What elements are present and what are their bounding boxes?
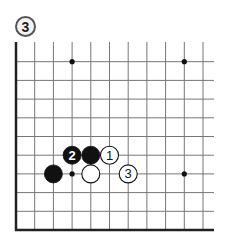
black-stone <box>44 165 62 183</box>
move-number: 2 <box>68 148 75 163</box>
white-stone: 1 <box>101 146 119 164</box>
star-point-icon <box>70 171 75 176</box>
board-grid <box>15 42 214 231</box>
white-stone: 3 <box>119 165 137 183</box>
white-stone <box>82 165 100 183</box>
star-point-icon <box>70 59 75 64</box>
star-point-icon <box>182 171 187 176</box>
move-number: 1 <box>106 148 113 163</box>
move-number: 3 <box>125 166 132 181</box>
black-stone <box>82 146 100 164</box>
stones: 213 <box>44 146 137 183</box>
go-board-diagram: 213 <box>0 0 227 245</box>
black-stone: 2 <box>63 146 81 164</box>
star-point-icon <box>182 59 187 64</box>
